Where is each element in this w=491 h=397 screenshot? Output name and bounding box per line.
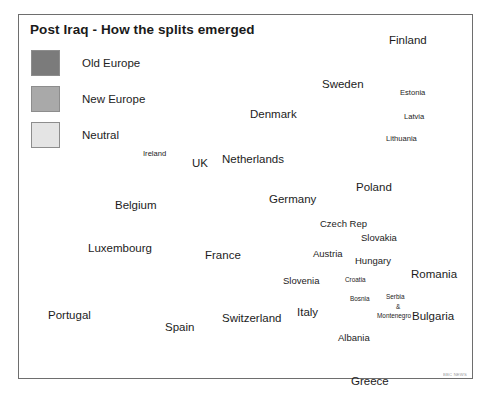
map-label-ampersand: &: [396, 304, 400, 310]
map-label-lithuania: Lithuania: [386, 135, 417, 143]
map-label-slovakia: Slovakia: [361, 233, 397, 243]
map-legend: Old Europe New Europe Neutral: [31, 48, 145, 156]
legend-label-old-europe: Old Europe: [82, 57, 140, 69]
map-label-switzerland: Switzerland: [222, 313, 281, 325]
map-label-montenegro: Montenegro: [377, 313, 411, 319]
legend-label-new-europe: New Europe: [82, 93, 145, 105]
map-label-czech-republic: Czech Rep: [320, 219, 367, 229]
legend-item-old-europe[interactable]: Old Europe: [31, 48, 145, 77]
map-label-serbia: Serbia: [386, 294, 404, 300]
map-label-italy: Italy: [297, 307, 318, 319]
map-label-denmark: Denmark: [250, 109, 297, 121]
legend-swatch-new-europe: [31, 86, 60, 112]
map-label-austria: Austria: [313, 249, 343, 259]
map-label-luxembourg: Luxembourg: [88, 243, 152, 255]
map-label-bosnia: Bosnia: [350, 296, 370, 302]
map-label-greece: Greece: [351, 376, 389, 388]
map-label-france: France: [205, 250, 241, 262]
legend-item-new-europe[interactable]: New Europe: [31, 84, 145, 113]
map-label-germany: Germany: [269, 194, 316, 206]
map-label-latvia: Latvia: [404, 113, 424, 121]
map-label-sweden: Sweden: [322, 79, 364, 91]
map-label-poland: Poland: [356, 182, 392, 194]
legend-item-neutral[interactable]: Neutral: [31, 120, 145, 149]
map-label-estonia: Estonia: [400, 89, 425, 97]
map-label-united-kingdom: UK: [192, 158, 208, 170]
map-label-finland: Finland: [389, 35, 427, 47]
legend-swatch-old-europe: [31, 50, 60, 76]
map-label-bulgaria: Bulgaria: [412, 311, 454, 323]
map-label-croatia: Croatia: [345, 277, 366, 283]
map-label-spain: Spain: [165, 322, 194, 334]
map-label-portugal: Portugal: [48, 310, 91, 322]
map-label-hungary: Hungary: [355, 256, 391, 266]
map-label-slovenia: Slovenia: [283, 276, 319, 286]
map-label-albania: Albania: [338, 333, 370, 343]
chart-title: Post Iraq - How the splits emerged: [30, 22, 255, 37]
map-figure: Post Iraq - How the splits emerged Old E…: [0, 0, 491, 397]
attribution-watermark: BBC NEWS: [443, 372, 467, 377]
map-label-ireland: Ireland: [143, 150, 166, 158]
map-label-romania: Romania: [411, 269, 457, 281]
map-label-netherlands: Netherlands: [222, 154, 284, 166]
map-label-belgium: Belgium: [115, 200, 157, 212]
legend-label-neutral: Neutral: [82, 129, 119, 141]
legend-swatch-neutral: [31, 122, 60, 148]
